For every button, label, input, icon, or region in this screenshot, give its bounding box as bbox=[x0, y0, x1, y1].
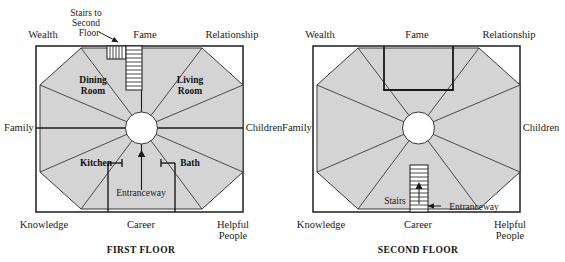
stairs-callout-line1: Stairs to bbox=[70, 8, 102, 18]
label-fame: Fame bbox=[133, 29, 157, 40]
bagua-floor-plan-figure: Stairs to Second Floor Wealth Fame Relat… bbox=[0, 0, 565, 262]
label-children: Children bbox=[523, 122, 560, 133]
second-floor-panel: Wealth Fame Relationship Family Children… bbox=[282, 0, 565, 262]
stairs-callout-line3: Floor bbox=[79, 28, 100, 38]
label-knowledge: Knowledge bbox=[20, 219, 69, 230]
label-fame: Fame bbox=[405, 29, 429, 40]
label-helpful-people-line2: People bbox=[496, 230, 525, 241]
center-circle bbox=[403, 112, 435, 144]
room-dining-line1: Dining bbox=[79, 75, 107, 85]
label-career: Career bbox=[127, 219, 155, 230]
stairs-callout-leader bbox=[99, 32, 118, 42]
label-relationship: Relationship bbox=[205, 29, 258, 40]
stairs-callout-line2: Second bbox=[72, 18, 100, 28]
first-floor-panel: Stairs to Second Floor Wealth Fame Relat… bbox=[0, 0, 283, 262]
first-floor-plan-svg: Stairs to Second Floor Wealth Fame Relat… bbox=[0, 0, 283, 262]
room-dining-line2: Room bbox=[81, 86, 105, 96]
label-wealth: Wealth bbox=[305, 29, 335, 40]
label-entranceway: Entranceway bbox=[449, 202, 499, 212]
label-family: Family bbox=[4, 122, 35, 133]
room-bath: Bath bbox=[180, 158, 200, 168]
room-living-line2: Room bbox=[178, 86, 202, 96]
label-helpful-people-line2: People bbox=[219, 230, 248, 241]
stair-flight bbox=[126, 46, 142, 90]
second-floor-title: SECOND FLOOR bbox=[378, 245, 459, 255]
label-helpful-people-line1: Helpful bbox=[494, 219, 526, 230]
label-relationship: Relationship bbox=[482, 29, 535, 40]
label-entranceway: Entranceway bbox=[116, 188, 166, 198]
first-floor-title: FIRST FLOOR bbox=[107, 245, 175, 255]
room-living-line1: Living bbox=[177, 75, 204, 85]
label-children: Children bbox=[246, 122, 283, 133]
room-kitchen: Kitchen bbox=[80, 158, 113, 168]
label-helpful-people-line1: Helpful bbox=[217, 219, 249, 230]
label-career: Career bbox=[404, 219, 432, 230]
label-wealth: Wealth bbox=[28, 29, 58, 40]
label-stairs: Stairs bbox=[384, 196, 406, 206]
second-floor-plan-svg: Wealth Fame Relationship Family Children… bbox=[282, 0, 565, 262]
staircase-second-floor bbox=[410, 165, 428, 212]
center-circle bbox=[126, 112, 158, 144]
label-family: Family bbox=[282, 122, 313, 133]
label-knowledge: Knowledge bbox=[297, 219, 346, 230]
